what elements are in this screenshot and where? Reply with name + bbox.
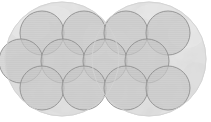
circles-diagram-svg: Overlapping circles lattice diagram (0, 0, 211, 122)
small-circle-group (0, 11, 190, 110)
small-circle-bottom-4 (146, 66, 190, 110)
small-circle-bottom-2 (62, 66, 106, 110)
figure-canvas: Overlapping circles lattice diagram (0, 0, 211, 122)
